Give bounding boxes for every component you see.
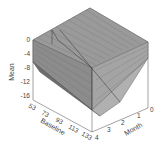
surface-plot-svg: 0 -4 -8 -12 -16 Mean 53 73 93 113 133 Ba… [0,0,160,148]
x-axis: 53 73 93 113 133 Baseline [28,102,94,142]
z-tick: 0 [26,36,30,43]
z-tick: -8 [24,64,30,71]
y-tick: 0 [150,106,154,113]
z-tick: -4 [24,50,30,57]
surface-plot: 0 -4 -8 -12 -16 Mean 53 73 93 113 133 Ba… [0,0,160,148]
y-tick: 1 [137,112,141,119]
y-tick: 3 [107,126,111,133]
y-tick: 4 [95,134,99,141]
y-axis-label: Month [123,121,143,137]
z-axis-label: Mean [8,63,15,81]
surface [33,8,148,116]
z-tick: -12 [21,78,31,85]
y-tick: 2 [121,119,125,126]
z-axis: 0 -4 -8 -12 -16 Mean [8,36,30,99]
x-tick: 53 [28,102,38,112]
z-tick: -16 [21,92,31,99]
